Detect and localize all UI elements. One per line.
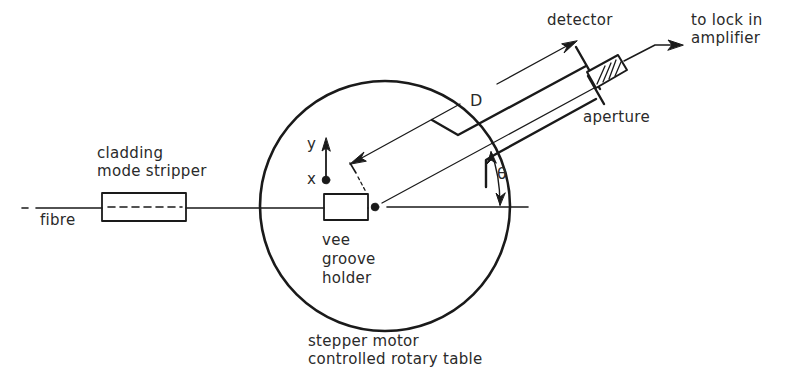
vee-groove-holder (324, 194, 368, 220)
x-axis-dot (322, 176, 330, 184)
distance-arrowhead-start (350, 152, 366, 164)
lock-in-label-line1: to lock in (691, 12, 763, 29)
fibre-end-tick (350, 163, 356, 173)
rotary-table (260, 81, 510, 331)
table-label-line2: controlled rotary table (308, 351, 482, 368)
aperture-label: aperture (583, 109, 650, 126)
cladding-label-line2: mode stripper (97, 163, 207, 180)
holder-label-line3: holder (322, 270, 372, 287)
fibre-label: fibre (40, 212, 76, 229)
distance-label: D (470, 92, 483, 109)
angle-label: θ (497, 165, 507, 182)
arm-centerline (382, 87, 596, 203)
cable-to-amplifier (624, 45, 672, 61)
x-axis-label: x (307, 171, 316, 188)
pivot-point (371, 203, 379, 211)
holder-label-line1: vee (322, 232, 350, 249)
lock-in-label-line2: amplifier (691, 30, 760, 47)
distance-line-a (358, 104, 460, 160)
holder-label-line2: groove (322, 251, 376, 268)
theta-arrow-bottom (496, 193, 505, 205)
fibre-end-dashed (358, 177, 366, 192)
arm-upper-edge (432, 66, 586, 135)
detector-label: detector (547, 12, 613, 29)
setup-diagram (0, 0, 792, 384)
cladding-label-line1: cladding (97, 145, 163, 162)
detector-body (587, 55, 627, 88)
table-label-line1: stepper motor (308, 333, 419, 350)
y-axis-label: y (307, 136, 316, 153)
